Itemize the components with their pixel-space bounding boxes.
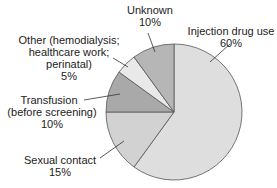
- label-sexual-pct: 15%: [18, 166, 102, 178]
- label-transfusion-line2: (before screening): [6, 106, 98, 118]
- label-injection-pct: 60%: [185, 37, 277, 49]
- label-transfusion: Transfusion (before screening) 10%: [6, 94, 98, 130]
- label-other-pct: 5%: [14, 70, 124, 82]
- label-injection-name: Injection drug use: [185, 25, 277, 37]
- label-sexual-name: Sexual contact: [18, 154, 102, 166]
- label-sexual: Sexual contact 15%: [18, 154, 102, 178]
- label-unknown-pct: 10%: [120, 16, 180, 28]
- label-unknown: Unknown 10%: [120, 4, 180, 28]
- label-other-line3: perinatal): [14, 58, 124, 70]
- label-transfusion-line1: Transfusion: [0, 94, 98, 106]
- label-other-line2: healthcare work;: [14, 46, 124, 58]
- label-unknown-name: Unknown: [120, 4, 180, 16]
- label-injection: Injection drug use 60%: [185, 25, 277, 49]
- label-transfusion-pct: 10%: [6, 118, 98, 130]
- label-other-line1: Other (hemodialysis;: [14, 34, 124, 46]
- label-other: Other (hemodialysis; healthcare work; pe…: [14, 34, 124, 82]
